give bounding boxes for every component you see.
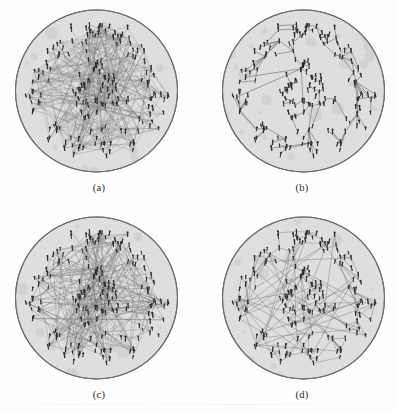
graph-disc-a — [14, 8, 179, 174]
panel-caption-b: (b) — [207, 182, 397, 193]
graph-disc-d — [221, 215, 386, 381]
panel-caption-c: (c) — [0, 389, 198, 400]
figure-container: (a) (b) (c) (d) — [0, 0, 397, 413]
panel-a: (a) — [0, 0, 198, 206]
panel-caption-d: (d) — [207, 389, 397, 400]
network-graph-d — [221, 215, 386, 381]
network-graph-b — [221, 8, 386, 174]
network-graph-c — [14, 215, 179, 381]
panel-d: (d) — [199, 207, 397, 413]
panel-c: (c) — [0, 207, 198, 413]
network-graph-a — [14, 8, 179, 174]
scan-artifact-line — [18, 404, 378, 405]
graph-disc-c — [14, 215, 179, 381]
graph-disc-b — [221, 8, 386, 174]
panel-b: (b) — [199, 0, 397, 206]
panel-caption-a: (a) — [0, 182, 198, 193]
